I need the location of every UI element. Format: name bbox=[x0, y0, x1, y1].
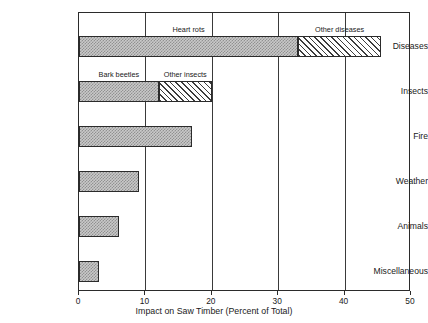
bar-segment-miscellaneous-0 bbox=[79, 261, 99, 282]
x-tick-label-50: 50 bbox=[405, 296, 414, 306]
bar-chart: Heart rotsOther diseasesBark beetlesOthe… bbox=[0, 0, 428, 323]
x-tick-label-20: 20 bbox=[206, 296, 215, 306]
category-label-animals: Animals bbox=[354, 221, 428, 231]
bar-segment-weather-0 bbox=[79, 171, 139, 192]
bar-segment-fire-0 bbox=[79, 126, 192, 147]
bar-segment-diseases-0 bbox=[79, 36, 298, 57]
category-label-miscellaneous: Miscellaneous bbox=[354, 266, 428, 276]
x-tick-mark-50 bbox=[410, 291, 411, 295]
x-tick-mark-10 bbox=[144, 291, 145, 295]
category-label-diseases: Diseases bbox=[354, 41, 428, 51]
plot-area: Heart rotsOther diseasesBark beetlesOthe… bbox=[78, 12, 410, 291]
bar-segment-insects-1 bbox=[159, 81, 212, 102]
x-tick-mark-0 bbox=[78, 291, 79, 295]
x-tick-label-30: 30 bbox=[273, 296, 282, 306]
category-label-weather: Weather bbox=[354, 176, 428, 186]
x-tick-mark-40 bbox=[344, 291, 345, 295]
segment-annotation-heart-rots: Heart rots bbox=[173, 25, 205, 34]
x-axis-title: Impact on Saw Timber (Percent of Total) bbox=[0, 306, 428, 317]
x-tick-mark-30 bbox=[277, 291, 278, 295]
bar-segment-insects-0 bbox=[79, 81, 159, 102]
category-label-insects: Insects bbox=[354, 86, 428, 96]
x-tick-label-40: 40 bbox=[339, 296, 348, 306]
segment-annotation-bark-beetles: Bark beetles bbox=[99, 70, 140, 79]
segment-annotation-other-insects: Other insects bbox=[164, 70, 207, 79]
x-tick-mark-20 bbox=[211, 291, 212, 295]
x-tick-label-10: 10 bbox=[140, 296, 149, 306]
bar-segment-animals-0 bbox=[79, 216, 119, 237]
category-label-fire: Fire bbox=[354, 131, 428, 141]
x-tick-label-0: 0 bbox=[76, 296, 81, 306]
segment-annotation-other-diseases: Other diseases bbox=[315, 25, 364, 34]
